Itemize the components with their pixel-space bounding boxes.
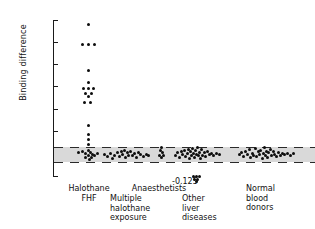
data-point <box>124 156 127 159</box>
y-tick-mark <box>53 42 58 43</box>
data-point <box>82 87 85 90</box>
data-point <box>111 157 114 160</box>
data-point <box>116 151 119 154</box>
data-point <box>292 152 295 155</box>
data-point <box>84 156 87 159</box>
data-point <box>188 157 191 160</box>
data-point <box>142 155 145 158</box>
data-point <box>83 101 86 104</box>
data-point <box>93 154 96 157</box>
data-point <box>81 43 84 46</box>
y-tick-mark <box>53 109 58 110</box>
data-point <box>84 92 87 95</box>
data-point <box>147 154 150 157</box>
data-point <box>87 143 90 146</box>
data-point <box>87 87 90 90</box>
data-point <box>87 138 90 141</box>
x-group-label-normal-blood-donors: Normal blood donors <box>246 184 306 213</box>
y-tick-mark <box>53 64 58 65</box>
data-point <box>218 153 221 156</box>
data-point <box>183 149 186 152</box>
data-point <box>87 23 90 26</box>
data-point <box>93 43 96 46</box>
data-point <box>194 149 197 152</box>
x-group-label-other-liver-diseases: Other liver diseases <box>182 194 242 223</box>
x-group-label-anaesthetists: Anaesthetists <box>124 184 194 194</box>
x-group-label-multiple-halothane: Multiple halothane exposure <box>110 194 170 223</box>
data-point <box>198 151 201 154</box>
data-point <box>109 152 112 155</box>
data-point <box>129 150 132 153</box>
data-point <box>267 151 270 154</box>
reference-band-upper-line <box>54 147 315 148</box>
data-point <box>87 133 90 136</box>
data-point <box>121 153 124 156</box>
data-point <box>174 154 177 157</box>
data-point <box>92 87 95 90</box>
data-point <box>200 148 203 151</box>
data-point <box>254 147 257 150</box>
data-point <box>87 95 90 98</box>
data-point <box>259 149 262 152</box>
data-point <box>240 151 243 154</box>
data-point <box>255 155 258 158</box>
data-point <box>160 156 163 159</box>
data-point <box>87 43 90 46</box>
data-point <box>87 69 90 72</box>
data-point <box>96 152 99 155</box>
y-tick-mark <box>53 86 58 87</box>
data-point <box>77 151 80 154</box>
data-point <box>90 92 93 95</box>
data-point <box>88 158 91 161</box>
data-point <box>212 154 215 157</box>
data-point <box>261 157 264 160</box>
data-point <box>275 155 278 158</box>
scatter-plot-figure: Binding difference 0.60.50.40.30.20.10-0… <box>0 0 315 229</box>
data-point <box>184 155 187 158</box>
data-point <box>249 156 252 159</box>
data-point <box>178 156 181 159</box>
data-point <box>186 152 189 155</box>
y-tick-mark <box>53 131 58 132</box>
data-point <box>246 153 249 156</box>
data-point <box>266 156 269 159</box>
data-point <box>193 156 196 159</box>
data-point <box>258 153 261 156</box>
y-tick-mark <box>53 20 58 21</box>
data-point <box>289 154 292 157</box>
reference-band-lower-line <box>54 162 315 163</box>
data-point <box>113 154 116 157</box>
data-point <box>89 101 92 104</box>
data-point <box>242 155 245 158</box>
data-point <box>87 81 90 84</box>
data-point <box>133 152 136 155</box>
data-point <box>106 155 109 158</box>
data-point <box>204 155 207 158</box>
y-axis-label: Binding difference <box>19 3 28 123</box>
data-point <box>118 155 121 158</box>
data-point <box>135 156 138 159</box>
data-point <box>176 151 179 154</box>
data-point <box>199 157 202 160</box>
y-tick-mark <box>53 176 58 177</box>
data-point <box>87 124 90 127</box>
data-point <box>248 148 251 151</box>
